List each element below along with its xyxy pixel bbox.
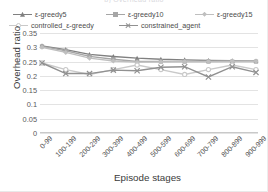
legend-label: controlled_ε-greedy	[31, 21, 94, 30]
series-0	[40, 43, 259, 63]
legend-label: ε-greedy15	[217, 10, 253, 19]
legend-label: constrained_agent	[141, 21, 200, 30]
legend-row-1: ε-greedy5 ε-greedy10 ε-greedy15	[9, 9, 261, 20]
legend-marker-square-icon	[106, 11, 125, 19]
x-axis-tick-label: 400-499	[124, 134, 149, 159]
series-2	[40, 45, 259, 65]
data-point-marker	[64, 67, 68, 71]
series-4	[39, 60, 258, 79]
y-axis-tick-label: 0.05	[23, 114, 37, 123]
legend-item-constrained-agent[interactable]: constrained_agent	[119, 21, 200, 30]
x-axis-title: Episode stages	[40, 172, 255, 183]
marker-glyph	[202, 12, 207, 17]
y-axis-tick-label: 0.1	[27, 100, 37, 109]
data-point-marker	[183, 72, 187, 76]
data-point-marker	[206, 74, 211, 79]
series-line	[42, 63, 256, 77]
bottom-border	[0, 191, 268, 192]
x-axis-tick-label: 700-799	[196, 134, 221, 159]
legend-label: ε-greedy5	[35, 10, 67, 19]
chart-title: b) Overhead ratio	[0, 0, 268, 3]
chart-legend: ε-greedy5 ε-greedy10 ε-greedy15	[9, 9, 261, 33]
x-axis-tick-label: 500-599	[148, 134, 173, 159]
y-axis-tick-label: 0	[33, 129, 37, 138]
chart-root: b) Overhead ratio ε-greedy5 ε-greedy10	[0, 0, 268, 192]
data-point-marker	[135, 63, 139, 67]
x-axis-tick-label: 100-199	[53, 134, 78, 159]
x-axis-tick-label: 900-999	[243, 134, 268, 159]
legend-item-epsilon-greedy10[interactable]: ε-greedy10	[106, 10, 164, 19]
y-axis-tick-label: 0.35	[23, 29, 37, 38]
x-axis-tick-label: 0-99	[38, 134, 55, 151]
legend-marker-diamond-icon	[195, 11, 214, 19]
plot-area: 00.050.10.150.20.250.30.35	[40, 33, 258, 133]
x-axis-tick-labels: 0-99100-199200-299300-399400-499500-5996…	[40, 134, 258, 170]
marker-glyph	[113, 12, 118, 17]
right-border	[267, 0, 268, 192]
x-axis-tick-label: 300-399	[101, 134, 126, 159]
y-axis-title: Overhead ratio	[11, 8, 22, 108]
legend-row-2: controlled_ε-greedy constrained_agent	[9, 20, 261, 31]
y-axis-tick-label: 0.2	[27, 71, 37, 80]
x-axis-tick-label: 600-699	[172, 134, 197, 159]
y-axis-tick-label: 0.3	[27, 43, 37, 52]
y-axis-tick-label: 0.25	[23, 57, 37, 66]
legend-item-epsilon-greedy15[interactable]: ε-greedy15	[195, 10, 253, 19]
x-axis-tick-label: 200-299	[77, 134, 102, 159]
marker-glyph	[126, 23, 131, 28]
legend-label: ε-greedy10	[128, 10, 164, 19]
legend-marker-x-icon	[119, 22, 138, 30]
data-point-marker	[206, 67, 210, 71]
y-axis-tick-label: 0.15	[23, 86, 37, 95]
series-lines	[40, 33, 258, 133]
x-axis-tick-label: 800-899	[220, 134, 245, 159]
